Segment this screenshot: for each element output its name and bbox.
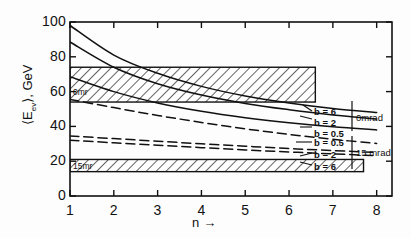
x-tick-label-6: 6 <box>279 202 299 218</box>
x-tick-label-1: 1 <box>60 202 80 218</box>
x-tick-label-4: 4 <box>191 202 211 218</box>
x-tick-label-8: 8 <box>367 202 387 218</box>
legend-group-label-0mrad: 0mrad <box>356 112 383 123</box>
figure-root: ⟨Eev⟩, GeV n → 020406080100123456780mr15… <box>0 0 411 238</box>
legend-entry-0mrad-b2: b = 2 <box>314 117 336 128</box>
y-tick-label-20: 20 <box>24 152 66 168</box>
x-tick-label-5: 5 <box>235 202 255 218</box>
legend-entry-0mrad-b6: b = 6 <box>314 106 336 117</box>
y-tick-label-0: 0 <box>24 187 66 203</box>
x-tick-label-3: 3 <box>148 202 168 218</box>
band-label-0mr: 0mr <box>73 87 88 97</box>
leader-15mrad-b2 <box>300 153 312 156</box>
x-tick-label-7: 7 <box>323 202 343 218</box>
band-label-15mr: 15mr <box>73 161 92 171</box>
y-axis-label-sub: ev <box>29 103 38 111</box>
y-tick-label-100: 100 <box>24 13 66 29</box>
legend-entry-15mrad-b6: b = 6 <box>314 161 336 172</box>
x-tick-label-2: 2 <box>104 202 124 218</box>
leader-0mrad-b2 <box>300 116 312 119</box>
y-tick-label-80: 80 <box>24 48 66 64</box>
legend-entry-15mrad-b2: b = 2 <box>314 149 336 160</box>
legend-group-label-15mrad: 15 mrad <box>356 147 391 158</box>
y-tick-label-40: 40 <box>24 117 66 133</box>
y-tick-label-60: 60 <box>24 83 66 99</box>
legend-entry-15mrad-b0-5: b = 0.5 <box>314 137 344 148</box>
